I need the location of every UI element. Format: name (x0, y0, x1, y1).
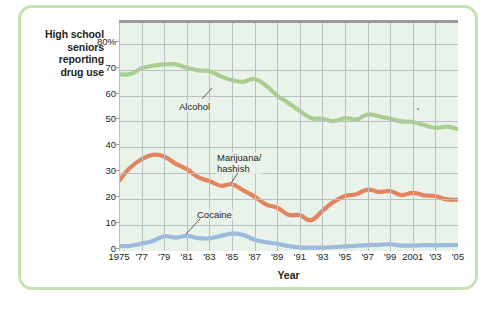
y-tick-label-60: 60 (80, 87, 116, 98)
gridline-x-1989 (277, 23, 278, 251)
gridline-y-70 (119, 70, 458, 71)
y-tick-mark-70 (114, 67, 119, 68)
gridline-y-60 (119, 96, 458, 97)
y-tick-label-30: 30 (80, 165, 116, 176)
gridline-y-30 (119, 173, 458, 174)
x-tick-label-1989: '89 (271, 251, 283, 262)
gridline-x-1977 (142, 23, 143, 251)
gridline-x-1975 (119, 23, 120, 251)
gridline-y-20 (119, 199, 458, 200)
gridline-x-1997 (368, 23, 369, 251)
y-tick-mark-20 (114, 196, 119, 197)
y-tick-mark-50 (114, 118, 119, 119)
series-line-cocaine (119, 234, 458, 248)
y-tick-labels: 80%706050403020100 (76, 20, 116, 248)
gridline-y-50 (119, 121, 458, 122)
x-tick-label-1999: '99 (384, 251, 396, 262)
print-speck (417, 108, 419, 110)
x-tick-label-1991: '91 (294, 251, 306, 262)
series-line-marijuana-hashish (119, 155, 458, 221)
y-tick-mark-60 (114, 93, 119, 94)
x-tick-label-2005: '05 (452, 251, 464, 262)
series-label-marijuana-line-2: hashish (217, 163, 261, 174)
y-tick-label-20: 20 (80, 191, 116, 202)
gridline-x-1981 (187, 23, 188, 251)
y-tick-label-40: 40 (80, 139, 116, 150)
x-tick-label-1975: 1975 (108, 251, 129, 262)
y-tick-mark-0 (114, 248, 119, 249)
x-tick-label-1983: '83 (203, 251, 215, 262)
gridline-x-1999 (390, 23, 391, 251)
gridline-x-2001 (413, 23, 414, 251)
gridline-x-1987 (255, 23, 256, 251)
x-tick-label-1995: '95 (339, 251, 351, 262)
gridline-y-40 (119, 147, 458, 148)
x-tick-label-1985: '85 (226, 251, 238, 262)
y-tick-label-10: 10 (80, 217, 116, 228)
y-tick-label-70: 70 (80, 61, 116, 72)
x-tick-label-1993: '93 (316, 251, 328, 262)
x-tick-label-2001: 2001 (402, 251, 423, 262)
gridline-y-80 (119, 44, 458, 45)
plot-area (119, 20, 458, 251)
x-tick-label-2003: '03 (429, 251, 441, 262)
x-tick-labels: 1975'77'79'81'83'85'87'89'91'93'95'97'99… (119, 251, 458, 267)
gridline-x-2003 (435, 23, 436, 251)
y-tick-label-50: 50 (80, 113, 116, 124)
series-label-alcohol: Alcohol (178, 101, 211, 112)
x-tick-label-1987: '87 (248, 251, 260, 262)
y-tick-mark-10 (114, 222, 119, 223)
series-lines (119, 23, 458, 251)
series-label-cocaine: Cocaine (196, 209, 233, 220)
y-tick-mark-80 (114, 41, 119, 42)
plot-inner (119, 23, 458, 251)
gridline-x-1991 (300, 23, 301, 251)
x-tick-label-1981: '81 (181, 251, 193, 262)
x-tick-label-1977: '77 (135, 251, 147, 262)
y-tick-label-80: 80% (80, 35, 116, 46)
x-tick-label-1997: '97 (361, 251, 373, 262)
y-tick-mark-40 (114, 144, 119, 145)
y-tick-mark-30 (114, 170, 119, 171)
gridline-x-1993 (322, 23, 323, 251)
gridline-x-1995 (345, 23, 346, 251)
chart-figure: High school seniors reporting drug use 8… (0, 0, 491, 310)
series-label-marijuana: Marijuana/ hashish (216, 152, 262, 174)
gridline-y-10 (119, 225, 458, 226)
gridline-x-1979 (164, 23, 165, 251)
x-axis-title: Year (119, 269, 458, 281)
series-label-marijuana-line-1: Marijuana/ (217, 152, 261, 163)
x-tick-label-1979: '79 (158, 251, 170, 262)
